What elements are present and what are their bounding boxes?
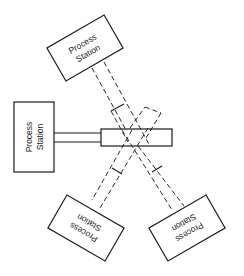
center-track (101, 129, 172, 146)
process-station-diagram: Process Station Process Station Process … (0, 0, 244, 276)
connector-left (54, 133, 101, 142)
station-left: Process Station (14, 102, 54, 172)
dashed-arm-upper-right (130, 107, 161, 138)
station-left-label-2: Station (35, 123, 45, 150)
station-left-label-1: Process (24, 122, 34, 153)
dashed-arm-bottom-right (122, 130, 184, 210)
station-bottom-left: Process Station (48, 195, 124, 261)
station-bottom-right: Process Station (149, 195, 225, 261)
station-top: Process Station (47, 15, 123, 81)
